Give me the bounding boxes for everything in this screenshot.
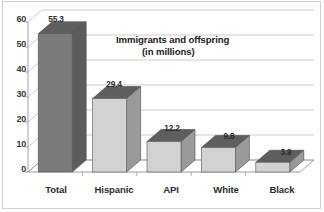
y-tick-label: 30 — [4, 89, 26, 99]
data-label-hispanic: 29.4 — [94, 79, 134, 89]
x-tick-label-black: Black — [254, 184, 310, 195]
y-tick-label: 10 — [4, 139, 26, 149]
bar-total — [38, 22, 86, 172]
data-label-total: 55.3 — [36, 14, 76, 24]
data-label-white: 9.8 — [209, 131, 249, 141]
x-tick-label-api: API — [144, 184, 198, 195]
y-tick-label: 40 — [4, 64, 26, 74]
x-tick-label-hispanic: Hispanic — [82, 184, 146, 195]
data-label-api: 12.2 — [152, 123, 192, 133]
bar-api — [147, 130, 195, 173]
y-tick-label: 20 — [4, 114, 26, 124]
chart-title-line2: (in millions) — [142, 46, 195, 58]
data-label-black: 3.9 — [266, 147, 306, 157]
chart-canvas — [0, 0, 324, 212]
x-tick-label-total: Total — [26, 184, 86, 195]
y-tick-label: 50 — [4, 39, 26, 49]
y-tick-label: 0 — [4, 164, 26, 174]
bar-chart: 60 50 40 30 20 10 0 Total Hispanic API W… — [0, 0, 324, 212]
y-tick-label: 60 — [4, 14, 26, 24]
x-tick-label-white: White — [198, 184, 254, 195]
chart-title-line1: Immigrants and offspring — [116, 34, 229, 46]
bar-hispanic — [93, 87, 141, 173]
